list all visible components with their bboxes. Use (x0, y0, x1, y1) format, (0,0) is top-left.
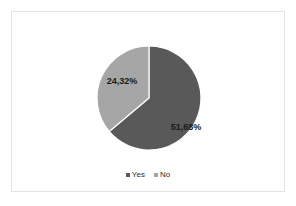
caption-fragment (10, 195, 290, 205)
legend-label-yes: Yes (132, 171, 145, 179)
legend-swatch-yes-icon (126, 173, 130, 177)
pie-label-no: 24,32% (107, 76, 138, 86)
legend-item-yes[interactable]: Yes (126, 171, 145, 179)
chart-legend: Yes No (12, 171, 284, 179)
pie-chart-svg: 24,32% 51,68% (12, 12, 286, 193)
pie-chart-plot-area: 24,32% 51,68% Yes No (12, 12, 284, 191)
legend-item-no[interactable]: No (154, 171, 170, 179)
legend-swatch-no-icon (154, 173, 158, 177)
legend-label-no: No (160, 171, 170, 179)
chart-frame: 24,32% 51,68% Yes No (11, 11, 285, 192)
pie-label-yes: 51,68% (171, 122, 202, 132)
